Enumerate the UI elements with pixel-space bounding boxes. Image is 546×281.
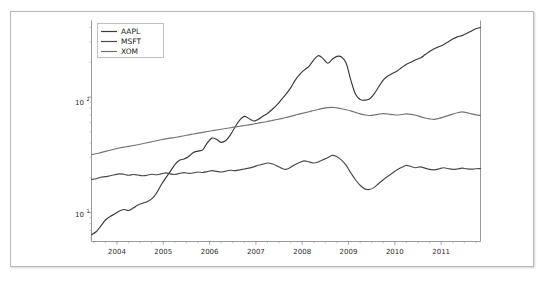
legend-label-aapl: AAPL <box>121 27 141 36</box>
x-tick-label-2008: 2008 <box>293 248 311 256</box>
legend-label-xom: XOM <box>121 47 138 56</box>
series-line-aapl <box>92 28 481 235</box>
x-tick-label-2005: 2005 <box>154 248 172 256</box>
series-group <box>92 28 481 235</box>
x-tick-label-2004: 2004 <box>108 248 126 256</box>
series-line-xom <box>92 107 481 154</box>
y-tick-exp-100: 2 <box>87 96 90 102</box>
y-axis-tick-labels: 10 2 10 1 <box>75 96 90 219</box>
line-chart-plot: 10 2 10 1 200420052006200720082009201020… <box>0 0 546 281</box>
series-line-msft <box>92 155 481 189</box>
x-tick-label-2006: 2006 <box>201 248 219 256</box>
y-tick-exp-10: 1 <box>87 208 90 214</box>
x-tick-label-2011: 2011 <box>432 248 450 256</box>
chart-screenshot: 10 2 10 1 200420052006200720082009201020… <box>0 0 546 281</box>
x-tick-label-2009: 2009 <box>340 248 358 256</box>
x-tick-label-2010: 2010 <box>386 248 404 256</box>
x-axis-tick-labels: 20042005200620072008200920102011 <box>108 248 450 256</box>
legend: AAPL MSFT XOM <box>98 24 164 58</box>
axis-ticks <box>88 28 476 245</box>
y-tick-label-100: 10 <box>75 99 84 107</box>
y-tick-label-10: 10 <box>75 211 84 219</box>
x-tick-label-2007: 2007 <box>247 248 265 256</box>
legend-label-msft: MSFT <box>121 37 141 46</box>
